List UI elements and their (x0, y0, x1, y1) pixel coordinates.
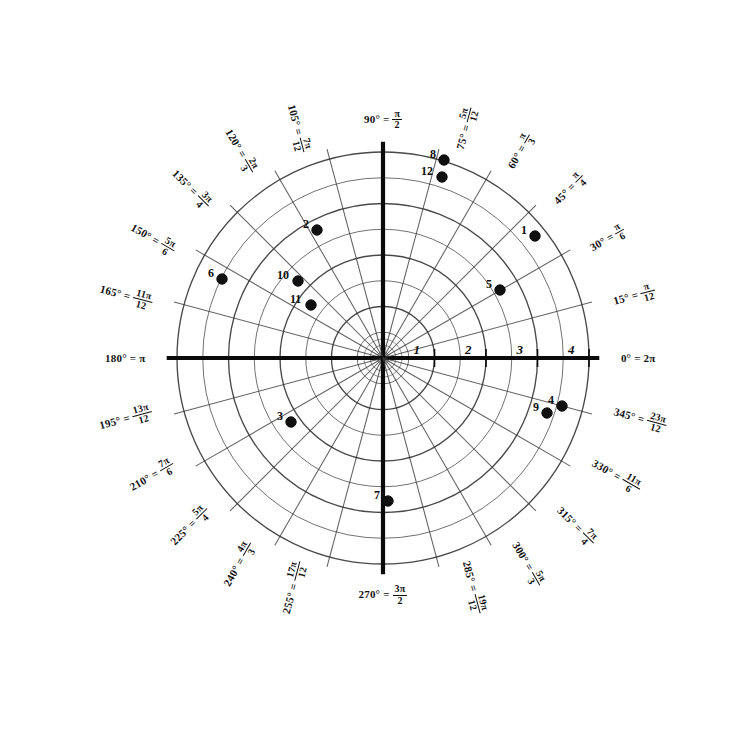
fraction-numerator: π (392, 109, 402, 119)
angle-degrees: 255° (280, 591, 297, 615)
angle-degrees: 180° (105, 352, 127, 364)
equals-sign: = (380, 113, 392, 125)
radial-tick-label-4: 4 (568, 342, 575, 358)
radial-tick-label-1: 1 (414, 342, 421, 358)
polar-axis-60deg (383, 171, 491, 358)
angle-degrees: 0° (621, 352, 631, 364)
angle-degrees: 270° (359, 589, 381, 601)
data-point-5[interactable] (495, 285, 505, 295)
data-point-label-8: 8 (430, 147, 436, 162)
radial-tick-label-2: 2 (465, 342, 472, 358)
data-point-label-6: 6 (208, 266, 214, 281)
angle-degrees: 105° (286, 103, 303, 127)
data-point-3[interactable] (286, 417, 296, 427)
data-point-9[interactable] (542, 408, 552, 418)
angle-radians: 2π (644, 352, 656, 364)
angle-radians: π (139, 352, 145, 364)
data-point-8[interactable] (439, 155, 449, 165)
fraction-numerator: 3π (393, 584, 408, 594)
data-point-4[interactable] (557, 401, 567, 411)
fraction-denominator: 2 (392, 119, 402, 130)
angle-radians-fraction: 3π2 (393, 584, 408, 605)
data-point-label-12: 12 (421, 164, 433, 179)
data-point-label-3: 3 (277, 409, 283, 424)
polar-axis-120deg (275, 171, 383, 358)
equals-sign: = (127, 352, 139, 364)
polar-axis-240deg (275, 358, 383, 545)
polar-axis-225deg (230, 358, 383, 511)
angle-label-0deg: 0° = 2π (621, 352, 656, 364)
data-point-6[interactable] (217, 274, 227, 284)
data-point-label-9: 9 (533, 400, 539, 415)
data-point-7[interactable] (383, 496, 393, 506)
data-point-2[interactable] (312, 225, 322, 235)
angle-label-90deg: 90° = π2 (364, 110, 402, 131)
polar-chart-canvas: 12345678910111212340° = 2π15° = π1230° =… (0, 0, 754, 743)
radial-tick-label-3: 3 (517, 342, 524, 358)
angle-degrees: 345° (613, 406, 637, 423)
data-point-label-11: 11 (290, 292, 301, 307)
data-point-11[interactable] (306, 300, 316, 310)
data-point-1[interactable] (530, 231, 540, 241)
data-point-10[interactable] (293, 276, 303, 286)
data-point-label-2: 2 (303, 217, 309, 232)
polar-axis-210deg (196, 358, 383, 466)
polar-axis-315deg (383, 358, 536, 511)
data-point-label-7: 7 (374, 488, 380, 503)
angle-radians-fraction: π2 (392, 109, 402, 130)
data-point-label-10: 10 (277, 268, 289, 283)
data-point-label-5: 5 (486, 277, 492, 292)
polar-axis-300deg (383, 358, 491, 545)
equals-sign: = (380, 589, 392, 601)
equals-sign: = (631, 352, 643, 364)
angle-label-180deg: 180° = π (105, 352, 145, 364)
angle-degrees: 195° (98, 414, 122, 431)
fraction-denominator: 2 (393, 595, 408, 606)
angle-label-270deg: 270° = 3π2 (359, 585, 408, 606)
polar-axis-30deg (383, 250, 570, 358)
angle-degrees: 90° (364, 113, 380, 125)
data-point-label-4: 4 (548, 393, 554, 408)
data-point-12[interactable] (437, 172, 447, 182)
polar-axis-45deg (383, 205, 536, 358)
data-point-label-1: 1 (521, 223, 527, 238)
fraction-denominator: 12 (641, 290, 658, 305)
